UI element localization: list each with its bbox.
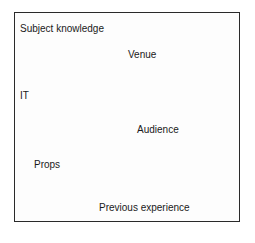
diagram-frame: [14, 12, 240, 222]
label-previous-experience: Previous experience: [99, 202, 190, 214]
label-venue: Venue: [128, 49, 156, 61]
label-subject-knowledge: Subject knowledge: [20, 23, 104, 35]
label-it: IT: [20, 90, 29, 102]
label-props: Props: [34, 159, 60, 171]
label-audience: Audience: [137, 124, 179, 136]
